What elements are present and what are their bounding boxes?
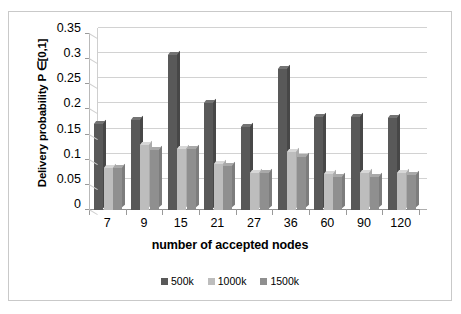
bar[interactable] <box>204 103 213 210</box>
legend-swatch-icon <box>161 278 168 285</box>
bar-group <box>200 34 237 210</box>
bar[interactable] <box>333 177 342 210</box>
bar[interactable] <box>388 118 397 210</box>
bar[interactable] <box>168 55 177 210</box>
y-tick-label: 0.3 <box>64 47 81 59</box>
bar[interactable] <box>324 174 333 209</box>
bar-group <box>310 34 347 210</box>
bar[interactable] <box>407 175 416 209</box>
legend-item[interactable]: 1500k <box>260 275 299 287</box>
bar[interactable] <box>177 149 186 209</box>
bar-top-face <box>187 146 198 149</box>
x-tick-label: 15 <box>174 216 188 230</box>
bar-front-face <box>260 173 269 210</box>
bar[interactable] <box>113 168 122 209</box>
bar-front-face <box>168 55 177 210</box>
bar[interactable] <box>140 145 149 209</box>
y-tick-label: 0.2 <box>64 97 81 109</box>
bar[interactable] <box>397 173 406 210</box>
bar-front-face <box>223 166 232 209</box>
bar-top-face <box>167 52 178 55</box>
bar-top-face <box>260 170 271 173</box>
bar-side-face <box>306 153 309 207</box>
bar[interactable] <box>187 149 196 209</box>
bar[interactable] <box>223 166 232 209</box>
x-axis-title: number of accepted nodes <box>9 238 451 252</box>
legend-label: 1500k <box>270 275 299 287</box>
bar-side-face <box>379 173 382 208</box>
bar-front-face <box>177 149 186 209</box>
legend-swatch-icon <box>208 278 215 285</box>
legend-item[interactable]: 500k <box>161 275 194 287</box>
bar[interactable] <box>214 164 223 209</box>
bar[interactable] <box>131 120 140 211</box>
bar-front-face <box>187 149 196 209</box>
bar-series-container <box>90 34 420 210</box>
figure-frame: Delivery probability P ∈[0,1] 00.050.10.… <box>8 11 452 301</box>
bar[interactable] <box>94 124 103 210</box>
y-tick-label: 0.25 <box>57 72 81 84</box>
bar-front-face <box>370 177 379 209</box>
bar-front-face <box>324 174 333 209</box>
bar-side-face <box>232 162 235 207</box>
bar-group <box>347 34 384 210</box>
bar-front-face <box>104 168 113 210</box>
bar-front-face <box>204 103 213 210</box>
legend-swatch-icon <box>260 278 267 285</box>
bar[interactable] <box>241 127 250 210</box>
bar-top-face <box>277 66 288 69</box>
bar[interactable] <box>260 173 269 210</box>
x-tick-label: 60 <box>320 216 334 230</box>
bar-front-face <box>297 157 306 209</box>
bar-top-face <box>131 117 142 120</box>
bar-group <box>237 34 274 210</box>
y-axis-title: Delivery probability P ∈[0,1] <box>35 28 49 198</box>
x-tick-label: 7 <box>104 216 111 230</box>
bar-front-face <box>397 173 406 210</box>
bar-group <box>273 34 310 210</box>
legend-label: 500k <box>171 275 194 287</box>
bar-front-face <box>351 117 360 210</box>
bar-front-face <box>333 177 342 210</box>
y-tick-label: 0 <box>74 198 81 210</box>
bar[interactable] <box>287 152 296 210</box>
bar-group <box>383 34 420 210</box>
chart-legend: 500k1000k1500k <box>9 275 451 287</box>
bar[interactable] <box>360 173 369 209</box>
x-axis-tick-labels: 79152127366090120 <box>89 216 427 234</box>
bar-side-face <box>159 146 162 208</box>
legend-item[interactable]: 1000k <box>208 275 247 287</box>
bar[interactable] <box>351 117 360 210</box>
bar-group <box>127 34 164 210</box>
x-tick-label: 120 <box>390 216 411 230</box>
y-tick-label: 0.1 <box>64 148 81 160</box>
bar-front-face <box>287 152 296 210</box>
bar-front-face <box>241 127 250 210</box>
bar[interactable] <box>314 117 323 210</box>
bar-front-face <box>150 150 159 209</box>
bar[interactable] <box>150 150 159 209</box>
plot-area <box>89 34 427 210</box>
y-tick-label: 0.05 <box>57 173 81 185</box>
bar-front-face <box>94 124 103 210</box>
bar-front-face <box>250 173 259 210</box>
bar-side-face <box>122 164 125 208</box>
y-tick-label: 0.15 <box>57 123 81 135</box>
bar-front-face <box>388 118 397 210</box>
y-tick-label: 0.35 <box>57 22 81 34</box>
x-tick-label: 36 <box>284 216 298 230</box>
y-axis-tick-labels: 00.050.10.150.20.250.30.35 <box>49 34 81 210</box>
gridline <box>98 27 427 28</box>
bar-front-face <box>140 145 149 209</box>
bar-chart: Delivery probability P ∈[0,1] 00.050.10.… <box>9 12 451 300</box>
bar-front-face <box>278 69 287 210</box>
bar-front-face <box>407 175 416 209</box>
bar-front-face <box>113 168 122 209</box>
bar-front-face <box>360 173 369 209</box>
bar[interactable] <box>370 177 379 209</box>
bar[interactable] <box>104 168 113 210</box>
bar[interactable] <box>278 69 287 210</box>
bar[interactable] <box>297 157 306 209</box>
x-tick-label: 27 <box>247 216 261 230</box>
bar[interactable] <box>250 173 259 210</box>
